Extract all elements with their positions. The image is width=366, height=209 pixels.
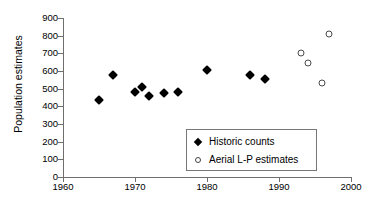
y-tick-label: 600: [24, 66, 58, 76]
y-tick-label-wrap: 400: [18, 101, 58, 111]
x-tick-label: 1980: [187, 181, 227, 192]
y-tick-mark: [58, 53, 63, 54]
y-tick-mark: [58, 106, 63, 107]
y-tick-label: 400: [24, 101, 58, 111]
legend-item-label: Historic counts: [209, 136, 275, 148]
y-tick-label-wrap: 200: [18, 137, 58, 147]
legend-item-aerial-lp-estimates: Aerial L-P estimates: [192, 151, 298, 168]
y-axis-line: [63, 18, 64, 177]
data-point: [202, 65, 212, 75]
x-tick-label: 1970: [115, 181, 155, 192]
y-tick-label: 900: [24, 13, 58, 23]
y-tick-label-wrap: 900: [18, 13, 58, 23]
y-tick-mark: [58, 89, 63, 90]
data-point: [319, 80, 326, 87]
data-point: [108, 70, 118, 80]
data-point: [245, 70, 255, 80]
data-point: [260, 75, 270, 85]
y-tick-mark: [58, 36, 63, 37]
data-point: [173, 87, 183, 97]
y-tick-label-wrap: 800: [18, 31, 58, 41]
data-point: [94, 95, 104, 105]
legend-item-historic-counts: Historic counts: [192, 133, 275, 150]
data-point: [304, 60, 311, 67]
y-tick-label: 200: [24, 137, 58, 147]
open-circle-icon: [192, 154, 204, 166]
y-tick-mark: [58, 71, 63, 72]
y-tick-label: 500: [24, 84, 58, 94]
legend: Historic counts Aerial L-P estimates: [186, 129, 317, 171]
y-tick-label-wrap: 300: [18, 119, 58, 129]
y-tick-label: 700: [24, 48, 58, 58]
data-point: [297, 50, 304, 57]
y-tick-label-wrap: 700: [18, 48, 58, 58]
filled-diamond-icon: [192, 136, 204, 148]
y-tick-mark: [58, 159, 63, 160]
y-tick-label: 100: [24, 154, 58, 164]
y-tick-label-wrap: 100: [18, 154, 58, 164]
data-point: [159, 88, 169, 98]
y-tick-mark: [58, 142, 63, 143]
data-point: [326, 30, 333, 37]
y-tick-label-wrap: 500: [18, 84, 58, 94]
y-tick-label: 300: [24, 119, 58, 129]
y-tick-mark: [58, 124, 63, 125]
y-tick-mark: [58, 18, 63, 19]
x-tick-label: 2000: [331, 181, 366, 192]
legend-item-label: Aerial L-P estimates: [209, 154, 298, 166]
y-tick-label: 800: [24, 31, 58, 41]
data-point: [144, 91, 154, 101]
x-tick-label: 1990: [259, 181, 299, 192]
y-tick-label-wrap: 600: [18, 66, 58, 76]
x-tick-label: 1960: [43, 181, 83, 192]
